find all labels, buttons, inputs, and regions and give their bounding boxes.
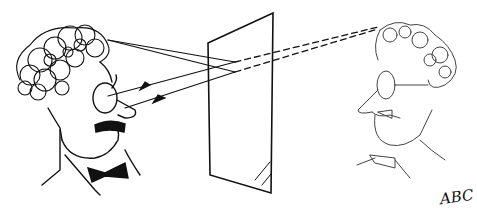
virtual-rays: [235, 27, 378, 72]
light-rays: [108, 40, 235, 108]
left-man-mustache: [95, 121, 125, 132]
glasses-lens: [93, 83, 117, 113]
mirror-hatch: [255, 162, 271, 185]
right-man-image: [357, 22, 456, 178]
mirror: [208, 13, 273, 193]
drawing: [0, 0, 477, 215]
left-man-bowtie: [88, 163, 128, 182]
cartoon-illustration: ABC: [0, 0, 477, 215]
